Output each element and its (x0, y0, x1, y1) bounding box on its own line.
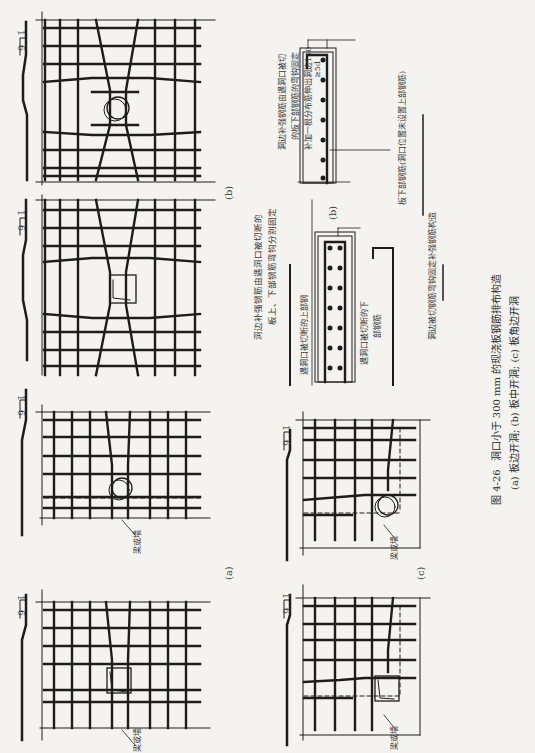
figure-title: 洞口小于 300 mm 的现浇板钢筋排布构造 (490, 274, 502, 462)
b-left-note-1: 洞边补强钢筋由遇洞口被切断的 (253, 214, 263, 340)
slope-1-a2: 1 (16, 595, 26, 601)
figure-caption: 图 4-26洞口小于 300 mm 的现浇板钢筋排布构造 (490, 274, 502, 505)
b-right-bottom-label: 板下部钢筋(洞口位置未设置上部钢筋) (397, 71, 407, 205)
section-label-b: (b) (327, 206, 338, 220)
panel-label-b: (b) (223, 186, 234, 200)
panel-a-round-hole (20, 390, 210, 535)
beam-label-c2: 梁或墙 (389, 726, 399, 750)
panel-label-c: (c) (415, 566, 426, 580)
slope-6-b1: 6 (16, 45, 26, 51)
slope-6-a1: 6 (16, 410, 26, 416)
slope-6-c2: 6 (281, 608, 291, 614)
b-right-note-2: 的板下部钢筋的弯钩固定 (290, 52, 300, 140)
b-right-dim: ≥5d (313, 61, 322, 78)
slope-6-b2: 6 (16, 225, 26, 231)
panel-b-round-hole (20, 12, 215, 185)
figure-number: 图 4-26 (491, 469, 502, 505)
panel-c-round-hole (284, 412, 430, 560)
b-right-note-3: 补加一根分布筋伸出洞边150 (303, 47, 313, 150)
beam-label-a1: 梁或墙 (132, 530, 142, 554)
slope-1-b1: 1 (16, 30, 26, 36)
figure-canvas: 6 1 6 1 6 1 6 1 6 1 6 1 梁或墙 梁或墙 梁或墙 梁或墙 … (0, 0, 535, 753)
b-right-footer-label: 洞边被切钢筋弯钩固定补强钢筋构造 (427, 212, 437, 340)
slope-1-a1: 1 (16, 395, 26, 401)
b-left-lower-label-2: 部钢筋 (372, 314, 382, 338)
b-right-note-1: 洞边补强钢筋由遇洞口被切 (277, 54, 287, 150)
panel-c-square-hole (284, 585, 430, 745)
section-b-right (298, 40, 443, 300)
panel-b-square-hole (20, 195, 215, 375)
b-left-lower-label-1: 遇洞口被切断的下 (359, 301, 369, 365)
panel-label-a: (a) (223, 566, 234, 580)
slope-6-c1: 6 (281, 440, 291, 446)
b-left-upper-label: 遇洞口被切断的上部钢 (299, 295, 309, 375)
b-left-note-2: 板上、下部钢筋弯钩分别固定 (267, 208, 277, 325)
slope-1-c1: 1 (281, 425, 291, 431)
beam-label-a2: 梁或墙 (132, 728, 142, 752)
slope-1-c2: 1 (281, 593, 291, 599)
panel-a-square-hole (20, 590, 210, 745)
slope-1-b2: 1 (16, 210, 26, 216)
slope-6-a2: 6 (16, 610, 26, 616)
beam-label-c1: 梁或墙 (389, 536, 399, 560)
figure-subcaption: (a) 板边开洞; (b) 板中开洞; (c) 板角边开洞 (508, 296, 520, 490)
